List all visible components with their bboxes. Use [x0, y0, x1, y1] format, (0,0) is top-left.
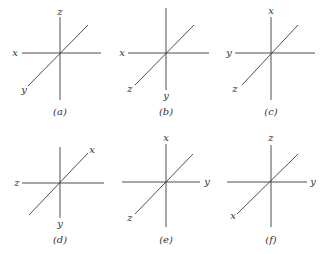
coordinate-systems-diagram: z x y (a) x z y (b) x y z (c) x z y (d)	[0, 0, 327, 254]
diagonal-axis	[29, 153, 88, 215]
diagonal-axis	[135, 154, 193, 214]
axis-label-right: y	[309, 176, 316, 187]
diagonal-axis	[28, 25, 88, 86]
axis-label-left: y	[225, 47, 232, 58]
diagonal-axis	[135, 25, 194, 85]
diagonal-axis	[237, 154, 298, 214]
axis-label-diag-low: z	[231, 83, 238, 94]
axis-label-up: z	[267, 132, 274, 143]
panel-e: x y z (e)	[122, 132, 210, 245]
axis-label-diag-low: x	[230, 210, 236, 221]
axis-label-left: x	[119, 47, 125, 58]
axis-label-up: x	[268, 5, 274, 16]
panel-f: z y x (f)	[227, 132, 316, 245]
panel-c: x y z (c)	[225, 5, 315, 117]
axis-label-diag-high: x	[89, 144, 95, 155]
axis-label-down: y	[56, 218, 63, 229]
axis-label-left: z	[13, 177, 20, 188]
axis-label-diag-low: z	[126, 212, 133, 223]
axis-label-right: y	[203, 176, 210, 187]
panel-caption: (e)	[159, 234, 173, 245]
panel-caption: (d)	[53, 234, 67, 245]
panel-b: x z y (b)	[119, 8, 209, 117]
panel-caption: (b)	[159, 106, 173, 117]
axis-label-diag-low: z	[126, 83, 133, 94]
panel-a: z x y (a)	[12, 6, 101, 117]
panel-caption: (a)	[53, 106, 67, 117]
panel-caption: (f)	[265, 234, 277, 245]
axis-label-up: x	[163, 132, 169, 143]
panel-caption: (c)	[264, 106, 278, 117]
axis-label-diag-low: y	[20, 84, 27, 95]
diagonal-axis	[242, 25, 298, 85]
axis-label-up: z	[56, 6, 63, 17]
panel-d: x z y (d)	[13, 144, 104, 245]
axis-label-left: x	[12, 47, 18, 58]
axis-label-down: y	[162, 90, 169, 101]
